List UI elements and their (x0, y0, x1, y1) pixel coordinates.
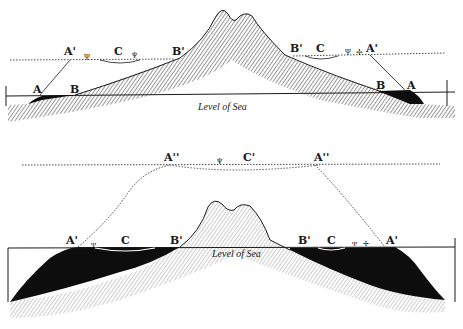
label-bottom-right-B-prime: B' (298, 234, 311, 247)
top-figure: Ψ ♆ Ψ ✢ A' C B' A B B' C A' B A Level of… (6, 10, 455, 122)
label-top-right-C: C (316, 42, 325, 55)
label-top-right-A-prime: A' (365, 42, 378, 55)
label-bottom-left-B-prime: B' (170, 234, 183, 247)
label-top-left-A: A (32, 83, 42, 96)
diagram-canvas: Ψ ♆ Ψ ✢ A' C B' A B B' C A' B A Level of… (0, 0, 463, 329)
bottom-upper-dotted (22, 164, 440, 165)
label-bottom-upper-C-prime: C' (243, 151, 255, 164)
label-bottom-right-C: C (327, 234, 336, 247)
bottom-right-plant2-icon: ✢ (363, 240, 369, 248)
label-bottom-upper-left-A-dprime: A'' (163, 151, 179, 164)
bottom-right-plant-icon: Ψ (352, 240, 358, 248)
top-left-upper-dotted (10, 59, 175, 60)
label-top-right-B: B (376, 79, 385, 92)
top-left-lake (100, 60, 140, 63)
label-top-left-B-prime: B' (172, 45, 185, 58)
top-right-lake (305, 56, 338, 59)
top-right-plant-icon: Ψ (345, 48, 351, 57)
top-boat-icon: ♆ (131, 51, 138, 60)
top-left-plant-icon: Ψ (84, 53, 90, 62)
top-left-slope (40, 60, 70, 95)
bottom-upper-lake (170, 165, 320, 170)
bottom-sea-level-label: Level of Sea (211, 248, 261, 259)
label-top-left-A-prime: A' (63, 45, 76, 58)
label-top-right-B-prime: B' (290, 42, 303, 55)
bottom-figure: ♆ Ψ Ψ ✢ A'' C' A'' A' C B' B' C A' Level… (8, 151, 455, 318)
bottom-boat-icon: ♆ (216, 157, 223, 166)
top-right-plant2-icon: ✢ (356, 48, 363, 57)
label-bottom-left-C: C (121, 234, 130, 247)
label-bottom-left-A-prime: A' (65, 234, 78, 247)
label-bottom-upper-right-A-dprime: A'' (313, 151, 329, 164)
label-top-left-B: B (70, 83, 79, 96)
label-bottom-right-A-prime: A' (385, 234, 398, 247)
label-top-right-A: A (406, 79, 416, 92)
label-top-left-C: C (114, 45, 123, 58)
bottom-right-dotted-slope (315, 165, 385, 247)
bottom-left-plant-icon: Ψ (91, 241, 97, 249)
top-sea-level-label: Level of Sea (197, 101, 247, 112)
